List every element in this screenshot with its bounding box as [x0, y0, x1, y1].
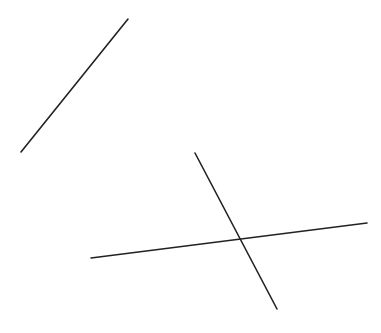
background: [0, 0, 381, 333]
drawing-canvas: [0, 0, 381, 333]
